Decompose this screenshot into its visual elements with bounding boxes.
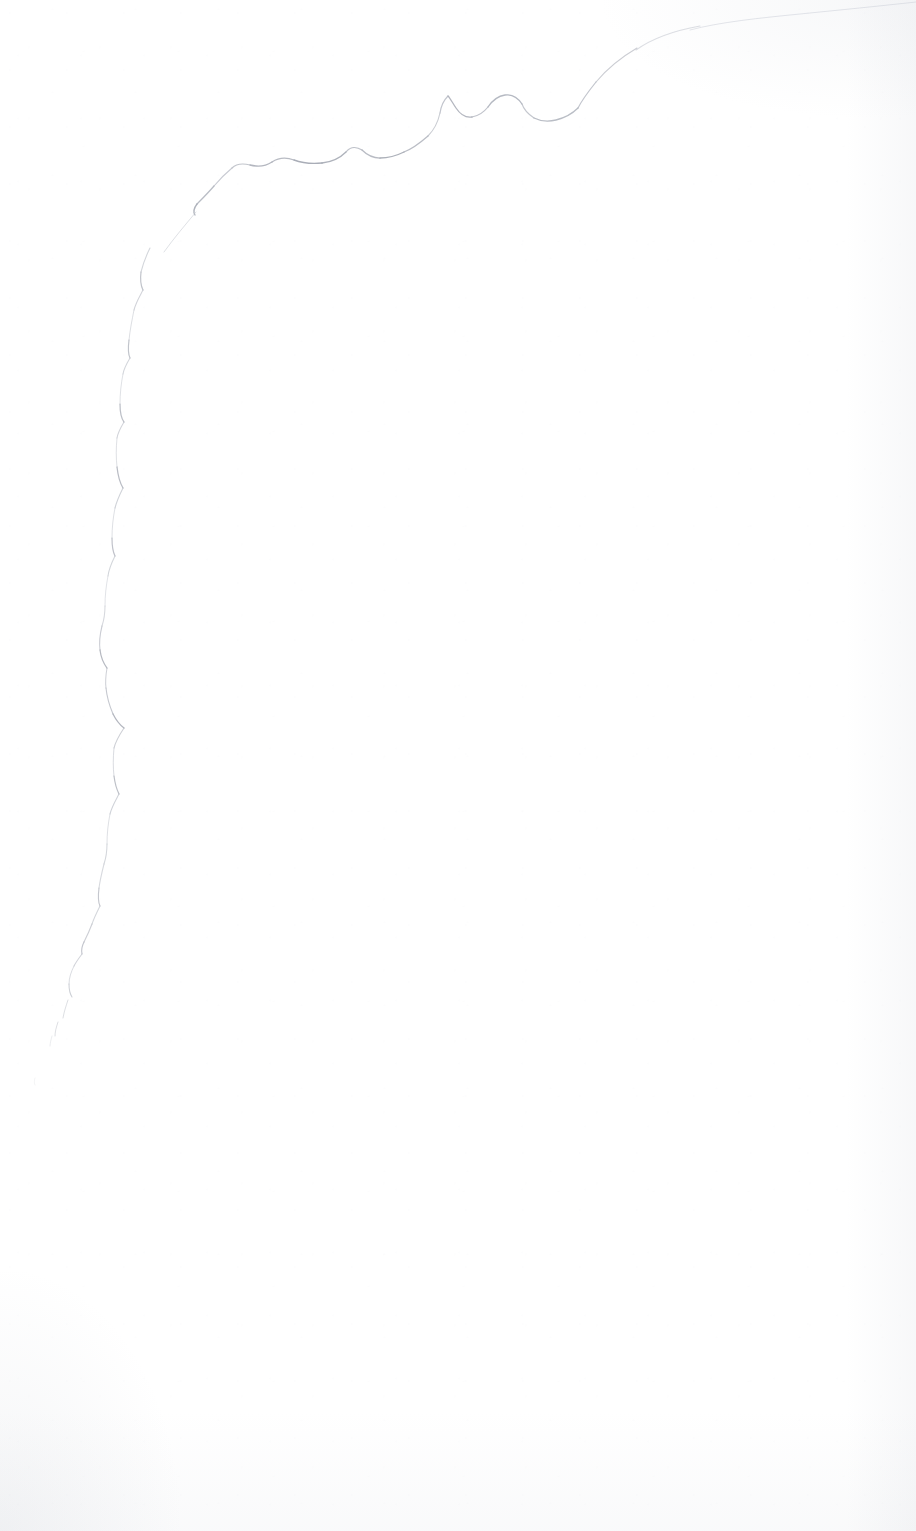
right-margin-shadow (846, 0, 916, 1531)
scanned-page-canvas (0, 0, 916, 1531)
bottom-margin-shadow (0, 1411, 916, 1531)
page-body-region (120, 240, 820, 1390)
top-right-scan-smudge (596, 0, 916, 120)
